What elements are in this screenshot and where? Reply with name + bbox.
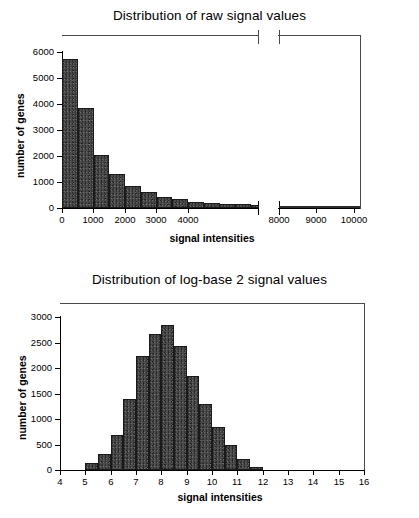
bar-raw-8 xyxy=(188,202,204,209)
y-tick-log2-2500 xyxy=(55,343,60,344)
y-tick-label-raw-3000: 3000 xyxy=(20,125,54,135)
plot-frame-top-right-raw xyxy=(278,35,360,36)
y-tick-label-raw-4000: 4000 xyxy=(20,99,54,109)
x-tick-log2-16 xyxy=(364,470,365,475)
bar-log2-6 xyxy=(161,325,174,470)
y-tick-label-log2-2000: 2000 xyxy=(18,363,52,373)
y-tick-label-raw-1000: 1000 xyxy=(20,177,54,187)
bar-log2-13 xyxy=(250,467,263,470)
x-tick-label-log2-8: 8 xyxy=(149,477,173,487)
x-tick-raw-2000 xyxy=(125,208,126,213)
x-tick-raw-1000 xyxy=(93,208,94,213)
x-tick-log2-9 xyxy=(187,470,188,475)
y-tick-label-raw-2000: 2000 xyxy=(20,151,54,161)
x-tick-raw-0 xyxy=(62,208,63,213)
x-tick-label-log2-13: 13 xyxy=(274,477,302,487)
bar-raw-9 xyxy=(204,203,220,208)
x-tick-label-log2-12: 12 xyxy=(249,477,277,487)
bar-raw-1 xyxy=(78,108,94,208)
x-tick-log2-7 xyxy=(136,470,137,475)
x-axis-right-segment-raw xyxy=(278,208,360,209)
plot-frame-top-log2 xyxy=(60,303,365,304)
x-tick-log2-10 xyxy=(212,470,213,475)
x-tick-label-log2-5: 5 xyxy=(73,477,97,487)
y-tick-log2-1500 xyxy=(55,394,60,395)
x-tick-raw-10000 xyxy=(354,208,355,213)
bar-log2-7 xyxy=(174,346,187,470)
bar-log2-0 xyxy=(85,463,98,470)
plot-frame-right-log2 xyxy=(364,303,365,471)
bar-raw-2 xyxy=(94,155,110,208)
y-tick-label-log2-0: 0 xyxy=(18,465,52,475)
bar-raw-7 xyxy=(172,199,188,208)
x-axis-label-log2: signal intensities xyxy=(60,491,380,503)
x-axis-label-raw: signal intensities xyxy=(62,232,362,244)
x-tick-label-raw-10000: 10000 xyxy=(330,215,378,225)
y-tick-log2-3000 xyxy=(55,317,60,318)
plot-frame-right-raw xyxy=(360,35,361,209)
y-tick-label-log2-2500: 2500 xyxy=(18,338,52,348)
x-tick-raw-8000 xyxy=(279,208,280,213)
x-tick-log2-14 xyxy=(313,470,314,475)
bar-raw-10 xyxy=(219,204,235,208)
bar-raw-6 xyxy=(157,197,173,208)
x-tick-log2-13 xyxy=(288,470,289,475)
axis-break-mark-bottom-left-raw xyxy=(258,201,259,215)
axis-break-mark-top-left-raw xyxy=(258,30,259,44)
axis-break-mark-top-right-raw xyxy=(279,30,280,44)
x-tick-log2-5 xyxy=(85,470,86,475)
bar-log2-11 xyxy=(225,445,238,471)
x-tick-log2-11 xyxy=(237,470,238,475)
chart-title-raw: Distribution of raw signal values xyxy=(0,8,419,23)
bar-raw-12 xyxy=(251,205,259,208)
bar-log2-2 xyxy=(111,435,124,470)
bar-raw-tail-segment xyxy=(279,206,360,208)
chart-raw-signal-values: Distribution of raw signal values number… xyxy=(0,0,419,258)
y-tick-label-log2-1000: 1000 xyxy=(18,414,52,424)
y-tick-log2-2000 xyxy=(55,368,60,369)
x-tick-label-log2-7: 7 xyxy=(124,477,148,487)
chart-log2-signal-values: Distribution of log-base 2 signal values… xyxy=(0,258,419,518)
x-tick-label-log2-9: 9 xyxy=(175,477,199,487)
x-tick-label-log2-14: 14 xyxy=(299,477,327,487)
bar-log2-10 xyxy=(212,427,225,470)
bar-raw-0 xyxy=(62,59,78,209)
plot-frame-top-left-raw xyxy=(62,35,259,36)
chart-title-log2: Distribution of log-base 2 signal values xyxy=(0,272,419,287)
bar-raw-3 xyxy=(109,174,125,208)
y-axis-log2 xyxy=(60,316,61,471)
x-tick-label-log2-6: 6 xyxy=(99,477,123,487)
x-tick-log2-15 xyxy=(339,470,340,475)
bar-log2-9 xyxy=(199,404,212,470)
x-tick-label-log2-4: 4 xyxy=(48,477,72,487)
y-tick-label-raw-0: 0 xyxy=(20,203,54,213)
y-tick-label-log2-1500: 1500 xyxy=(18,389,52,399)
bar-log2-1 xyxy=(98,454,111,470)
x-tick-log2-12 xyxy=(263,470,264,475)
x-tick-raw-3000 xyxy=(156,208,157,213)
x-tick-label-raw-4000: 4000 xyxy=(168,215,208,225)
bar-log2-3 xyxy=(123,399,136,470)
bar-raw-11 xyxy=(235,204,251,208)
bar-raw-4 xyxy=(125,186,141,208)
x-tick-raw-4000 xyxy=(188,208,189,213)
y-tick-label-log2-500: 500 xyxy=(18,440,52,450)
x-tick-label-log2-16: 16 xyxy=(350,477,378,487)
y-tick-raw-6000 xyxy=(57,52,62,53)
y-tick-label-raw-6000: 6000 xyxy=(20,47,54,57)
bar-log2-12 xyxy=(237,459,250,470)
x-tick-label-log2-15: 15 xyxy=(325,477,353,487)
y-tick-log2-500 xyxy=(55,445,60,446)
bar-log2-8 xyxy=(187,376,200,470)
y-tick-log2-1000 xyxy=(55,419,60,420)
x-tick-log2-8 xyxy=(161,470,162,475)
bar-log2-5 xyxy=(149,334,162,470)
x-axis-left-segment-raw xyxy=(62,208,259,209)
bar-raw-5 xyxy=(141,192,157,208)
x-tick-label-log2-11: 11 xyxy=(223,477,251,487)
x-tick-log2-6 xyxy=(111,470,112,475)
bar-log2-4 xyxy=(136,356,149,470)
x-tick-raw-9000 xyxy=(316,208,317,213)
y-tick-label-log2-3000: 3000 xyxy=(18,312,52,322)
x-tick-log2-4 xyxy=(60,470,61,475)
